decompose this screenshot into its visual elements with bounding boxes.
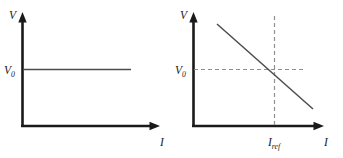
right-y-axis-label: V (180, 9, 189, 21)
figure-root: V I V0 V I (0, 0, 343, 158)
left-y-axis-label: V (9, 9, 18, 21)
right-x-axis-arrowhead (314, 122, 325, 130)
right-v0-tick-label: V0 (175, 64, 186, 79)
chart-ideal-voltage-source: V I V0 (4, 9, 165, 148)
left-x-axis-arrowhead (150, 122, 161, 130)
left-x-axis-label: I (159, 136, 165, 148)
left-v0-subscript: 0 (11, 70, 15, 79)
left-v0-tick-label: V0 (4, 64, 15, 79)
right-iref-tick-label: Iref (267, 136, 282, 151)
right-iref-subscript: ref (272, 142, 282, 151)
chart-drooping-voltage-source: V I V0 Iref (175, 9, 329, 151)
right-v0-subscript: 0 (182, 70, 186, 79)
right-droop-line (217, 24, 313, 109)
left-y-axis-arrowhead (18, 12, 26, 23)
right-y-axis-arrowhead (189, 12, 197, 23)
diagram-canvas: V I V0 V I (0, 0, 343, 158)
right-x-axis-label: I (323, 136, 329, 148)
